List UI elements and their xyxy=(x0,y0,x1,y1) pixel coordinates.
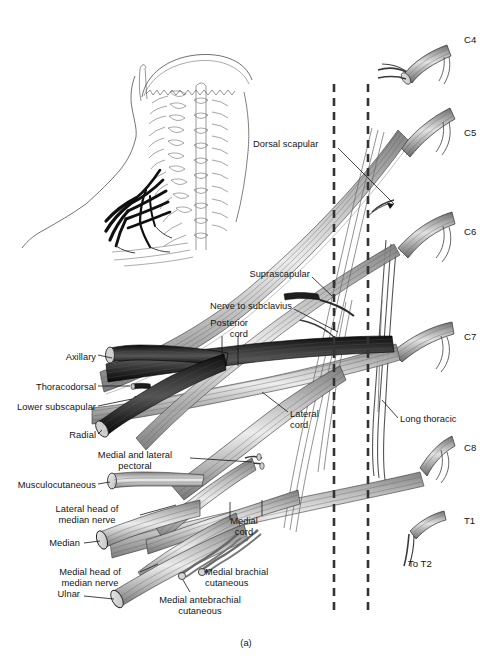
root-label-c4: C4 xyxy=(464,34,476,45)
label-medial-head-of-median-nerve: Medial head of median nerve xyxy=(26,567,154,589)
root-label-c5: C5 xyxy=(464,127,476,138)
root-label-to-t2: To T2 xyxy=(408,558,432,569)
figure-page: C4 C5 C6 C7 C8 T1 To T2 Dorsal scapular … xyxy=(0,0,492,659)
label-nerve-to-subclavius: Nerve to subclavius xyxy=(175,301,292,312)
label-lateral-head-of-median-nerve: Lateral head of median nerve xyxy=(22,504,152,526)
label-thoracodorsal: Thoracodorsal xyxy=(6,382,96,393)
label-median: Median xyxy=(30,538,80,549)
root-c8 xyxy=(420,436,455,483)
root-label-t1: T1 xyxy=(464,515,475,526)
label-radial: Radial xyxy=(46,430,96,441)
thoracodorsal-nerve xyxy=(131,383,151,389)
root-c4 xyxy=(378,45,451,86)
label-dorsal-scapular: Dorsal scapular xyxy=(253,139,318,150)
label-lower-subscapular: Lower subscapular xyxy=(1,402,96,413)
label-posterior-cord: Posterior cord xyxy=(178,318,248,340)
posterior-neck-inset xyxy=(22,54,252,266)
label-suprascapular: Suprascapular xyxy=(220,269,310,280)
label-musculocutaneous: Musculocutaneous xyxy=(0,480,96,491)
label-medial-and-lateral-pectoral: Medial and lateral pectoral xyxy=(65,450,205,472)
root-label-c8: C8 xyxy=(464,442,476,453)
label-medial-antebrachial-cutaneous: Medial antebrachial cutaneous xyxy=(140,595,260,617)
figure-caption: (a) xyxy=(0,638,492,648)
root-label-c7: C7 xyxy=(464,331,476,342)
root-c5 xyxy=(401,108,455,157)
root-label-c6: C6 xyxy=(464,226,476,237)
label-medial-cord: Medial cord xyxy=(214,516,274,538)
label-medial-brachial-cutaneous: Medial brachial cutaneous xyxy=(205,567,303,589)
root-c6 xyxy=(398,212,455,262)
label-long-thoracic: Long thoracic xyxy=(400,414,456,425)
root-c7 xyxy=(392,322,454,372)
label-lateral-cord: Lateral cord xyxy=(290,409,350,431)
label-ulnar: Ulnar xyxy=(36,589,80,600)
label-axillary: Axillary xyxy=(36,352,96,363)
